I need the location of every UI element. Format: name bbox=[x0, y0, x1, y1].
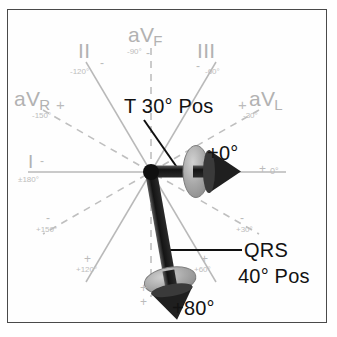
degree-label-minus-90: -90° bbox=[127, 48, 142, 56]
annotation-qrs-tip-angle: +80° bbox=[172, 298, 215, 318]
lead-label-II: II bbox=[78, 40, 90, 61]
degree-label-plus-60: +60° bbox=[194, 266, 211, 274]
polarity-mark-aVF-positive-lower: + bbox=[140, 296, 147, 308]
origin-point bbox=[143, 164, 159, 180]
polarity-mark-aVR-negative: - bbox=[46, 212, 50, 224]
polarity-mark-III-negative: - bbox=[196, 60, 200, 72]
lead-label-III: III bbox=[197, 40, 215, 61]
polarity-mark-II-positive: + bbox=[84, 253, 91, 265]
annotation-qrs-line1: QRS bbox=[244, 240, 288, 260]
degree-label-plus-30: +30° bbox=[236, 226, 253, 234]
polarity-mark-III-positive: + bbox=[201, 253, 208, 265]
polarity-mark-aVF-positive-upper: + bbox=[140, 282, 147, 294]
degree-label-minus-30: -30° bbox=[243, 112, 258, 120]
polarity-mark-aVR-positive: + bbox=[56, 97, 65, 112]
annotation-t-tip-angle: +0° bbox=[207, 143, 238, 163]
degree-label-plus-120: +120° bbox=[76, 266, 97, 274]
annotation-qrs-line2: 40° Pos bbox=[238, 266, 310, 286]
degree-label-minus-60: -60° bbox=[205, 68, 220, 76]
annotation-t-vector: T 30° Pos bbox=[124, 96, 213, 116]
degree-label-minus-120: -120° bbox=[70, 68, 89, 76]
ecg-axis-diagram: aVR II aVF III aVL I + - - - + - + - - +… bbox=[0, 0, 337, 337]
polarity-mark-aVL-positive: + bbox=[238, 97, 247, 112]
lead-label-I: I bbox=[28, 152, 34, 171]
degree-label-plus-minus-180: ±180° bbox=[18, 176, 39, 184]
polarity-mark-aVF-negative: - bbox=[146, 47, 150, 59]
lead-label-aVL: aVL bbox=[249, 88, 283, 112]
degree-label-zero: 0° bbox=[270, 167, 279, 176]
polarity-mark-I-negative: - bbox=[40, 155, 44, 167]
degree-label-minus-150: -150° bbox=[32, 112, 51, 120]
lead-label-aVF: aVF bbox=[128, 24, 163, 48]
polarity-mark-aVL-negative: - bbox=[240, 212, 244, 224]
degree-label-plus-150: +150° bbox=[36, 226, 57, 234]
polarity-mark-II-negative: - bbox=[100, 57, 104, 69]
lead-label-aVR: aVR bbox=[14, 88, 50, 112]
polarity-mark-I-positive: + bbox=[259, 163, 266, 175]
